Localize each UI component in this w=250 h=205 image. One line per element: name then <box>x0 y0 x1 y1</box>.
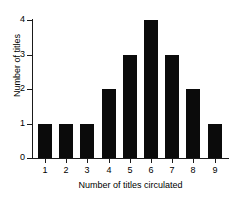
x-tick-2 <box>66 159 67 163</box>
x-tick-label-7: 7 <box>162 165 182 175</box>
y-tick-4 <box>27 20 33 21</box>
y-tick-label-1: 1 <box>13 119 25 128</box>
x-tick-8 <box>193 159 194 163</box>
y-axis-title: Number of titles <box>12 16 23 116</box>
y-tick-0 <box>27 158 33 159</box>
bar <box>80 124 94 159</box>
x-tick-label-5: 5 <box>120 165 140 175</box>
y-tick-1 <box>27 124 33 125</box>
x-tick-7 <box>172 159 173 163</box>
x-tick-5 <box>130 159 131 163</box>
y-tick-label-0: 0 <box>13 153 25 162</box>
x-tick-6 <box>151 159 152 163</box>
bar <box>59 124 73 159</box>
bar <box>38 124 52 159</box>
y-tick-3 <box>27 55 33 56</box>
bar <box>102 89 116 158</box>
bar <box>165 55 179 159</box>
x-tick-label-2: 2 <box>56 165 76 175</box>
x-tick-label-9: 9 <box>205 165 225 175</box>
x-tick-1 <box>45 159 46 163</box>
x-tick-3 <box>87 159 88 163</box>
x-tick-4 <box>109 159 110 163</box>
x-axis-title: Number of titles circulated <box>32 180 229 191</box>
x-tick-label-4: 4 <box>99 165 119 175</box>
x-tick-label-6: 6 <box>141 165 161 175</box>
bar <box>186 89 200 158</box>
bar <box>144 20 158 158</box>
x-tick-label-3: 3 <box>77 165 97 175</box>
bar <box>123 55 137 159</box>
x-tick-label-1: 1 <box>35 165 55 175</box>
x-tick-9 <box>215 159 216 163</box>
x-tick-label-8: 8 <box>183 165 203 175</box>
y-tick-2 <box>27 89 33 90</box>
bar-chart: 01234 123456789 Number of titles circula… <box>0 0 250 205</box>
bar <box>208 124 222 159</box>
